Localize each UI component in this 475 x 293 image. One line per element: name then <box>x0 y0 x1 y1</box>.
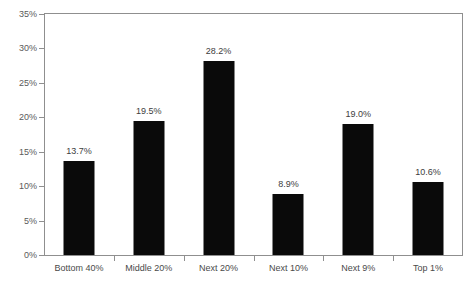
x-axis-tick-label: Top 1% <box>413 264 443 273</box>
y-axis-tick-label: 30% <box>3 44 37 53</box>
y-axis-tick-label: 20% <box>3 113 37 122</box>
y-axis: 0%5%10%15%20%25%30%35% <box>0 0 37 293</box>
bar-value-label: 13.7% <box>66 147 92 156</box>
bar-chart: 0%5%10%15%20%25%30%35% 13.7%19.5%28.2%8.… <box>0 0 475 293</box>
y-axis-tick-label: 5% <box>3 216 37 225</box>
y-axis-tick-label: 15% <box>3 147 37 156</box>
x-axis-tick-label: Middle 20% <box>125 264 172 273</box>
x-axis-tick-mark <box>114 256 115 261</box>
x-axis-tick-label: Next 10% <box>269 264 308 273</box>
x-axis-tick-label: Bottom 40% <box>54 264 103 273</box>
x-axis-tick-marks <box>44 256 463 262</box>
bar <box>63 161 94 255</box>
bar-group: 8.9% <box>254 14 324 255</box>
bar-value-label: 19.5% <box>136 107 162 116</box>
y-axis-tick-label: 35% <box>3 10 37 19</box>
bar <box>413 182 444 255</box>
x-axis-tick-label: Next 9% <box>341 264 375 273</box>
bar-group: 28.2% <box>184 14 254 255</box>
bar-value-label: 8.9% <box>278 180 299 189</box>
bar-value-label: 28.2% <box>206 47 232 56</box>
bar-group: 19.0% <box>323 14 393 255</box>
x-axis-tick-mark <box>254 256 255 261</box>
bar <box>343 124 374 255</box>
x-axis-tick-mark <box>184 256 185 261</box>
bar <box>273 194 304 255</box>
plot-area: 13.7%19.5%28.2%8.9%19.0%10.6% <box>45 14 462 255</box>
bar-value-label: 10.6% <box>415 168 441 177</box>
x-axis-tick-label: Next 20% <box>199 264 238 273</box>
bar <box>133 121 164 255</box>
bar-group: 13.7% <box>44 14 114 255</box>
x-axis: Bottom 40%Middle 20%Next 20%Next 10%Next… <box>44 264 463 280</box>
bar-group: 19.5% <box>114 14 184 255</box>
bar-value-label: 19.0% <box>345 110 371 119</box>
bar-group: 10.6% <box>393 14 463 255</box>
x-axis-tick-mark <box>323 256 324 261</box>
y-axis-tick-label: 25% <box>3 78 37 87</box>
bar <box>203 61 234 255</box>
x-axis-tick-mark <box>393 256 394 261</box>
y-axis-tick-label: 10% <box>3 182 37 191</box>
y-axis-tick-label: 0% <box>3 251 37 260</box>
